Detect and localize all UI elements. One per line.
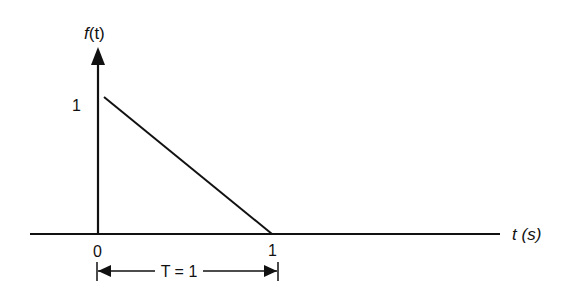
arrow-left-icon: [98, 265, 111, 277]
arrow-right-icon: [264, 265, 277, 277]
triangular-pulse-diagram: f(t) 1 0 1 t (s) T = 1: [0, 0, 582, 295]
y-axis-label: f(t): [84, 24, 105, 43]
y-axis-arrow-icon: [91, 47, 105, 65]
ramp-line: [104, 97, 272, 234]
y-tick-label-1: 1: [72, 97, 81, 114]
x-axis-label: t (s): [512, 225, 541, 244]
period-annotation: T = 1: [161, 263, 198, 280]
x-tick-label-0: 0: [93, 243, 102, 260]
x-tick-label-1: 1: [268, 242, 277, 259]
